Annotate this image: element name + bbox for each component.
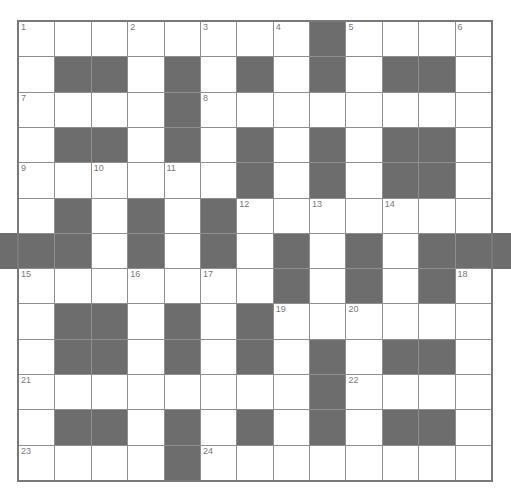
answer-cell[interactable]: [201, 410, 236, 444]
answer-cell[interactable]: [165, 269, 200, 303]
answer-cell[interactable]: [201, 163, 236, 197]
answer-cell[interactable]: [456, 199, 491, 233]
answer-cell[interactable]: [456, 163, 491, 197]
answer-cell[interactable]: 2: [128, 22, 163, 56]
answer-cell[interactable]: [92, 269, 127, 303]
answer-cell[interactable]: [346, 163, 381, 197]
answer-cell[interactable]: [237, 93, 272, 127]
answer-cell[interactable]: 9: [19, 163, 54, 197]
answer-cell[interactable]: [128, 304, 163, 338]
answer-cell[interactable]: [128, 375, 163, 409]
answer-cell[interactable]: [201, 128, 236, 162]
answer-cell[interactable]: [383, 304, 418, 338]
answer-cell[interactable]: [92, 22, 127, 56]
answer-cell[interactable]: 24: [201, 446, 236, 480]
answer-cell[interactable]: 16: [128, 269, 163, 303]
answer-cell[interactable]: 6: [456, 22, 491, 56]
answer-cell[interactable]: [456, 375, 491, 409]
answer-cell[interactable]: [274, 93, 309, 127]
answer-cell[interactable]: [128, 163, 163, 197]
answer-cell[interactable]: [55, 375, 90, 409]
answer-cell[interactable]: [383, 234, 418, 268]
answer-cell[interactable]: [165, 375, 200, 409]
answer-cell[interactable]: [456, 57, 491, 91]
answer-cell[interactable]: 10: [92, 163, 127, 197]
answer-cell[interactable]: [310, 269, 345, 303]
answer-cell[interactable]: [19, 410, 54, 444]
answer-cell[interactable]: [165, 22, 200, 56]
answer-cell[interactable]: [346, 199, 381, 233]
answer-cell[interactable]: [310, 446, 345, 480]
answer-cell[interactable]: 21: [19, 375, 54, 409]
answer-cell[interactable]: [128, 410, 163, 444]
answer-cell[interactable]: [128, 93, 163, 127]
answer-cell[interactable]: [419, 93, 454, 127]
answer-cell[interactable]: 13: [310, 199, 345, 233]
answer-cell[interactable]: [274, 446, 309, 480]
answer-cell[interactable]: [274, 57, 309, 91]
answer-cell[interactable]: [274, 163, 309, 197]
answer-cell[interactable]: 12: [237, 199, 272, 233]
answer-cell[interactable]: [419, 375, 454, 409]
answer-cell[interactable]: [201, 57, 236, 91]
answer-cell[interactable]: [237, 22, 272, 56]
answer-cell[interactable]: [419, 22, 454, 56]
answer-cell[interactable]: [237, 375, 272, 409]
answer-cell[interactable]: [237, 446, 272, 480]
answer-cell[interactable]: 18: [456, 269, 491, 303]
answer-cell[interactable]: 22: [346, 375, 381, 409]
answer-cell[interactable]: [456, 446, 491, 480]
answer-cell[interactable]: [55, 22, 90, 56]
answer-cell[interactable]: [419, 446, 454, 480]
answer-cell[interactable]: [274, 410, 309, 444]
answer-cell[interactable]: 19: [274, 304, 309, 338]
answer-cell[interactable]: [19, 340, 54, 374]
answer-cell[interactable]: [274, 375, 309, 409]
answer-cell[interactable]: 20: [346, 304, 381, 338]
answer-cell[interactable]: [346, 93, 381, 127]
answer-cell[interactable]: [456, 128, 491, 162]
answer-cell[interactable]: [383, 269, 418, 303]
answer-cell[interactable]: [55, 446, 90, 480]
answer-cell[interactable]: 1: [19, 22, 54, 56]
answer-cell[interactable]: [55, 269, 90, 303]
answer-cell[interactable]: [92, 199, 127, 233]
answer-cell[interactable]: [19, 57, 54, 91]
answer-cell[interactable]: [383, 93, 418, 127]
answer-cell[interactable]: [456, 93, 491, 127]
answer-cell[interactable]: [128, 446, 163, 480]
answer-cell[interactable]: [346, 128, 381, 162]
answer-cell[interactable]: [456, 304, 491, 338]
answer-cell[interactable]: [19, 304, 54, 338]
answer-cell[interactable]: [383, 375, 418, 409]
answer-cell[interactable]: 5: [346, 22, 381, 56]
answer-cell[interactable]: 8: [201, 93, 236, 127]
answer-cell[interactable]: 17: [201, 269, 236, 303]
answer-cell[interactable]: [165, 199, 200, 233]
answer-cell[interactable]: [201, 340, 236, 374]
answer-cell[interactable]: [346, 57, 381, 91]
answer-cell[interactable]: 4: [274, 22, 309, 56]
answer-cell[interactable]: [92, 375, 127, 409]
answer-cell[interactable]: [55, 93, 90, 127]
answer-cell[interactable]: [92, 446, 127, 480]
answer-cell[interactable]: [274, 128, 309, 162]
answer-cell[interactable]: [92, 93, 127, 127]
answer-cell[interactable]: [92, 234, 127, 268]
answer-cell[interactable]: [310, 304, 345, 338]
answer-cell[interactable]: 3: [201, 22, 236, 56]
answer-cell[interactable]: [419, 199, 454, 233]
answer-cell[interactable]: [128, 340, 163, 374]
answer-cell[interactable]: [310, 234, 345, 268]
answer-cell[interactable]: 23: [19, 446, 54, 480]
answer-cell[interactable]: [419, 304, 454, 338]
answer-cell[interactable]: [165, 234, 200, 268]
answer-cell[interactable]: 7: [19, 93, 54, 127]
answer-cell[interactable]: [456, 340, 491, 374]
answer-cell[interactable]: [310, 93, 345, 127]
answer-cell[interactable]: 11: [165, 163, 200, 197]
answer-cell[interactable]: 14: [383, 199, 418, 233]
answer-cell[interactable]: [383, 446, 418, 480]
answer-cell[interactable]: [237, 234, 272, 268]
answer-cell[interactable]: [201, 375, 236, 409]
